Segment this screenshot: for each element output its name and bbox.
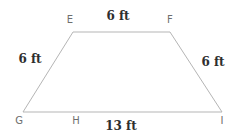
measure-label-FI: 6 ft — [201, 56, 224, 68]
measure-label-GI: 13 ft — [105, 120, 137, 132]
vertex-label-G: G — [15, 116, 23, 126]
trapezoid-figure: EFGHI6 ft6 ft6 ft13 ft — [0, 0, 235, 137]
vertex-label-H: H — [72, 116, 80, 126]
edge-GE — [23, 32, 73, 112]
vertex-label-F: F — [167, 15, 173, 25]
edge-FI — [170, 32, 222, 112]
vertex-label-E: E — [67, 15, 73, 25]
vertex-label-I: I — [221, 116, 224, 126]
measure-label-GE: 6 ft — [18, 53, 41, 65]
measure-label-EF: 6 ft — [106, 10, 129, 22]
